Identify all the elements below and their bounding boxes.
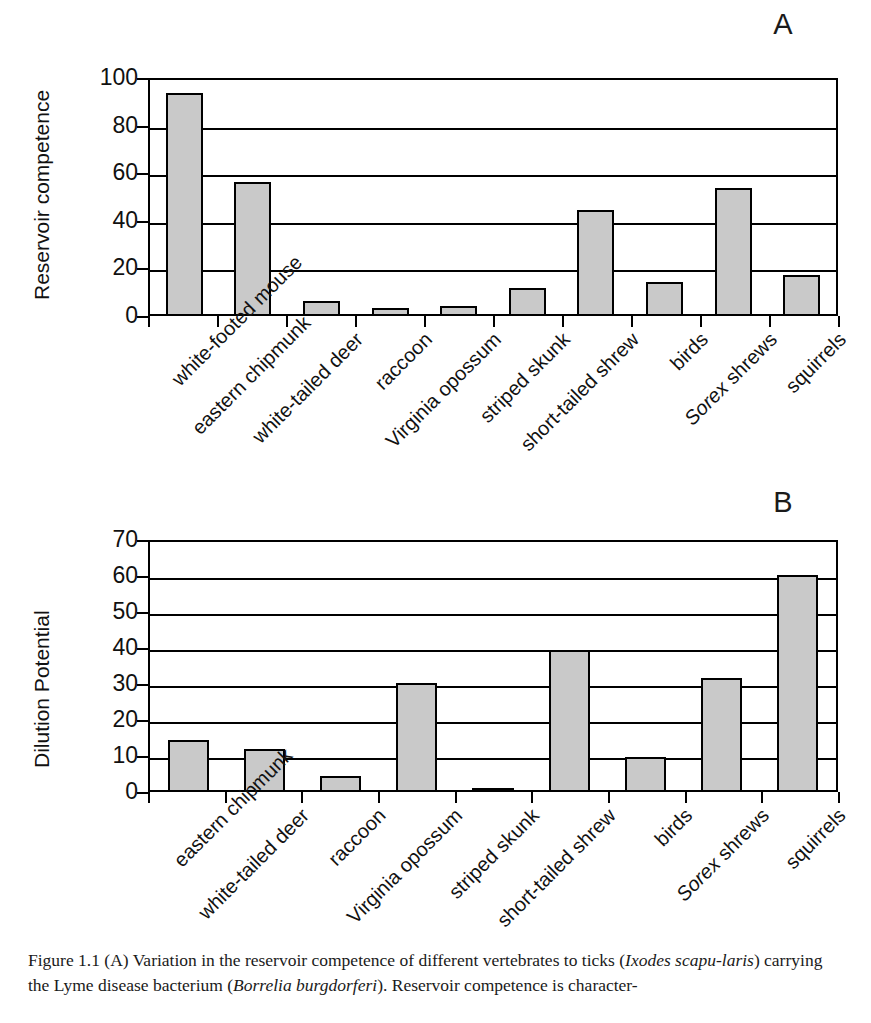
- panel-b-x-axis-labels: eastern chipmunkwhite-tailed deerraccoon…: [148, 804, 838, 954]
- x-tick-mark: [608, 792, 610, 803]
- panel-a-x-axis-labels: white-footed mouseeastern chipmunkwhite-…: [148, 328, 838, 478]
- figure-caption: Figure 1.1 (A) Variation in the reservoi…: [28, 948, 846, 998]
- bar: [646, 282, 683, 314]
- caption-species-ixodes-cont: laris: [722, 950, 754, 970]
- bar: [783, 275, 820, 314]
- bar: [625, 757, 666, 790]
- bar: [472, 788, 513, 790]
- x-tick-mark: [700, 316, 702, 327]
- bar-slot: [424, 80, 493, 314]
- bar: [372, 308, 409, 314]
- y-tick-mark-0: [137, 316, 148, 318]
- bar: [549, 650, 590, 790]
- x-tick-mark: [531, 792, 533, 803]
- x-tick-mark: [378, 792, 380, 803]
- y-tick-mark-70: [137, 540, 148, 542]
- bar-slot: [607, 542, 683, 790]
- bar-slot: [356, 80, 425, 314]
- panel-b-plot-area: [148, 540, 838, 792]
- y-tick-mark-40: [137, 648, 148, 650]
- bar: [777, 575, 818, 790]
- bar: [715, 188, 752, 314]
- bar: [168, 740, 209, 790]
- x-tick-mark: [493, 316, 495, 327]
- x-tick-mark: [631, 316, 633, 327]
- bar-slot: [531, 542, 607, 790]
- x-tick-mark: [424, 316, 426, 327]
- x-label-slot: squirrels: [148, 328, 835, 478]
- panel-b-bars: [150, 542, 836, 790]
- bar: [440, 306, 477, 314]
- y-tick-mark-30: [137, 684, 148, 686]
- caption-species-ixodes: Ixodes scapu-: [625, 950, 722, 970]
- x-tick-mark: [148, 316, 150, 327]
- bar-slot: [562, 80, 631, 314]
- x-tick-mark: [838, 316, 840, 327]
- x-label-slot: squirrels: [148, 804, 834, 954]
- bar: [509, 288, 546, 314]
- bar: [320, 776, 361, 790]
- bar-slot: [379, 542, 455, 790]
- panel-a-bars: [150, 80, 836, 314]
- bar: [396, 683, 437, 790]
- y-tick-mark-100: [137, 78, 148, 80]
- panel-b: B Dilution Potential 010203040506070 eas…: [0, 478, 871, 943]
- x-tick-mark: [769, 316, 771, 327]
- x-tick-mark: [301, 792, 303, 803]
- x-tick-mark: [685, 792, 687, 803]
- caption-text-3: ). Reservoir competence is character-: [377, 975, 638, 995]
- bar-slot: [455, 542, 531, 790]
- y-tick-mark-80: [137, 126, 148, 128]
- y-tick-mark-20: [137, 720, 148, 722]
- y-tick-mark-50: [137, 612, 148, 614]
- bar-slot: [699, 80, 768, 314]
- x-tick-mark: [761, 792, 763, 803]
- x-tick-mark: [355, 316, 357, 327]
- bar-slot: [630, 80, 699, 314]
- bar-slot: [302, 542, 378, 790]
- bar-slot: [287, 80, 356, 314]
- x-tick-mark: [148, 792, 150, 803]
- y-tick-mark-40: [137, 221, 148, 223]
- bar: [577, 210, 614, 314]
- y-tick-mark-0: [137, 792, 148, 794]
- bar-slot: [150, 542, 226, 790]
- caption-species-borrelia: Borrelia burgdorferi: [233, 975, 377, 995]
- y-tick-mark-60: [137, 173, 148, 175]
- x-tick-mark: [838, 792, 840, 803]
- bar: [166, 93, 203, 314]
- x-tick-mark: [562, 316, 564, 327]
- bar-slot: [767, 80, 836, 314]
- panel-a: A Reservoir competence 020406080100 whit…: [0, 0, 871, 470]
- panel-a-plot-area: [148, 78, 838, 316]
- bar-slot: [150, 80, 219, 314]
- y-tick-mark-10: [137, 756, 148, 758]
- bar: [701, 678, 742, 790]
- bar-slot: [684, 542, 760, 790]
- bar-slot: [493, 80, 562, 314]
- bar: [303, 301, 340, 314]
- figure-page: A Reservoir competence 020406080100 whit…: [0, 0, 871, 1023]
- x-tick-mark: [455, 792, 457, 803]
- y-tick-mark-60: [137, 576, 148, 578]
- bar-slot: [760, 542, 836, 790]
- y-tick-mark-20: [137, 268, 148, 270]
- caption-text-1: Figure 1.1 (A) Variation in the reservoi…: [28, 950, 625, 970]
